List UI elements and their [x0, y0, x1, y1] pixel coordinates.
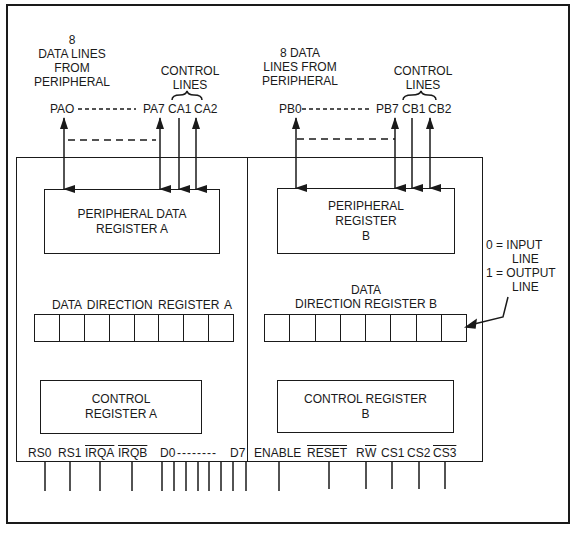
connection-lines	[0, 0, 574, 533]
